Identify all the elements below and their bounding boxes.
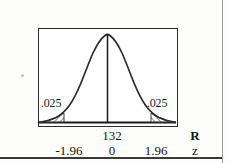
- z-upper-critical-label: 1.96: [138, 144, 174, 157]
- page-right-border-rule: [222, 0, 223, 163]
- distribution-figure-frame: [38, 28, 178, 127]
- raw-score-axis-label: R: [183, 129, 207, 142]
- lower-tail-area-label: .025: [41, 97, 61, 109]
- mean-value-label: 132: [95, 129, 129, 142]
- z-lower-critical-label: -1.96: [48, 144, 90, 157]
- normal-curve-plot: [39, 29, 176, 125]
- upper-tail-area-label: .025: [147, 97, 167, 109]
- scan-speck-artifact: [21, 74, 24, 77]
- z-score-axis-label: z: [183, 144, 207, 157]
- z-center-label: 0: [102, 144, 122, 157]
- page-bottom-border-rule: [0, 157, 222, 159]
